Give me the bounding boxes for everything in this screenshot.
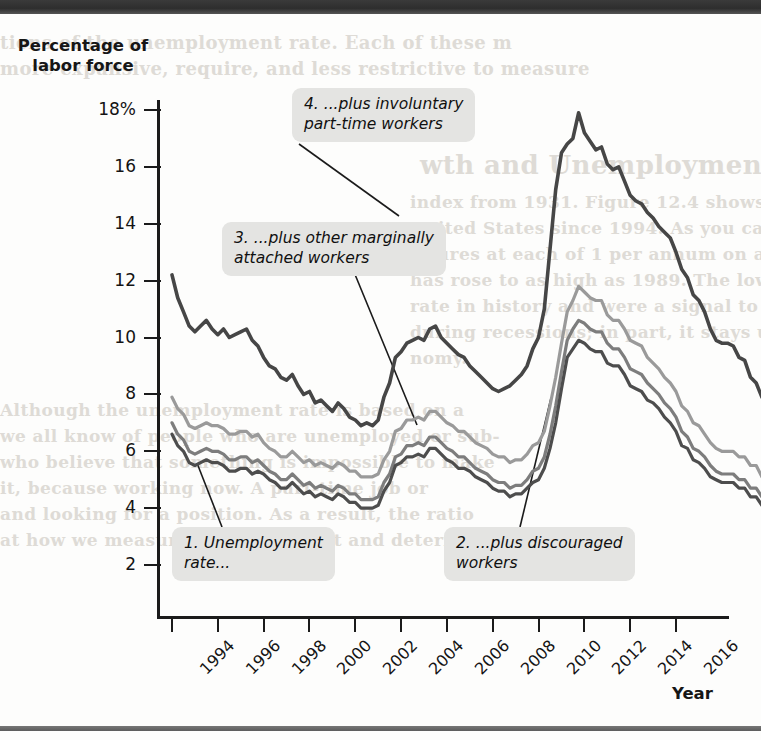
series-line-3: [172, 286, 761, 477]
callout-discouraged-workers: 2. ...plus discouraged workers: [444, 527, 635, 581]
series-line-1: [172, 340, 761, 508]
unemployment-figure: Percentage of labor force Year 246810121…: [0, 0, 761, 740]
callout-unemployment-rate: 1. Unemployment rate...: [172, 527, 335, 581]
callout-marginally-attached: 3. ...plus other marginally attached wor…: [222, 222, 446, 276]
callout-involuntary-part-time: 4. ...plus involuntary part-time workers: [292, 88, 475, 142]
